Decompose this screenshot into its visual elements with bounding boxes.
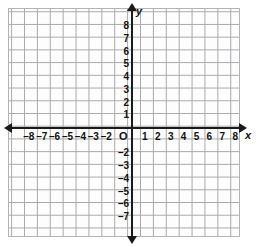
y-tick-label: –5 (113, 186, 129, 197)
y-axis-line (131, 10, 133, 237)
y-tick-label: –7 (113, 211, 129, 222)
x-axis-line (10, 127, 242, 129)
coordinate-plane: O x y –8–7–6–5–4–3–212345678 87654321–2–… (0, 0, 257, 247)
y-tick-label: 6 (113, 46, 129, 57)
x-tick-label: –2 (98, 131, 114, 142)
y-tick-label: –2 (113, 147, 129, 158)
y-tick-label: –4 (113, 173, 129, 184)
y-tick-label: 1 (113, 109, 129, 120)
y-axis-down-arrow-icon (127, 236, 137, 244)
y-tick-label: 5 (113, 58, 129, 69)
y-tick-label: –6 (113, 198, 129, 209)
x-axis-left-arrow-icon (4, 123, 12, 133)
y-tick-label: 3 (113, 84, 129, 95)
y-tick-label: –3 (113, 160, 129, 171)
x-tick-label: 8 (227, 131, 243, 142)
y-axis-label: y (136, 5, 142, 17)
y-tick-label: 4 (113, 71, 129, 82)
y-tick-label: 2 (113, 97, 129, 108)
y-tick-label: 8 (113, 20, 129, 31)
x-axis-label: x (245, 129, 251, 141)
y-tick-label: 7 (113, 33, 129, 44)
origin-label: O (119, 130, 128, 142)
